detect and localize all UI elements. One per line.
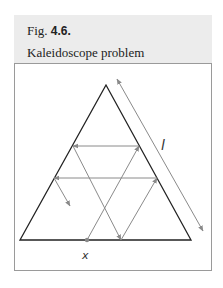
start-point xyxy=(85,238,89,242)
light-path xyxy=(54,146,157,240)
start-point-label: x xyxy=(81,249,89,262)
triangle xyxy=(20,85,191,240)
side-length-label: l xyxy=(161,137,165,153)
kaleidoscope-diagram: l x xyxy=(0,0,223,288)
side-length-arrow xyxy=(117,79,203,231)
